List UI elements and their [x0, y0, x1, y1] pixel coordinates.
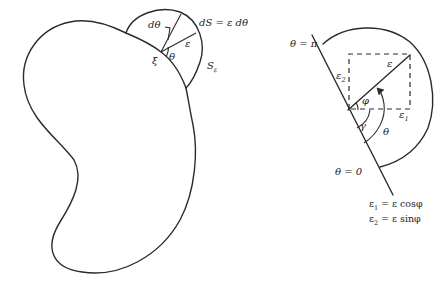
label-epsilon-radius: ε — [185, 38, 190, 49]
label-xi: ξ — [152, 55, 158, 66]
label-gamma: γ — [360, 120, 366, 131]
equation-eps1: ε1 = ε cosφ — [369, 198, 423, 212]
equation-eps2: ε2 = ε sinφ — [369, 213, 421, 227]
label-ds-equation: dS = ε dθ — [199, 17, 248, 28]
label-epsilon-1: ε1 — [399, 109, 409, 123]
epsilon-vector — [348, 55, 410, 110]
phi-arc — [356, 103, 358, 110]
label-theta-pi: θ = π — [290, 38, 318, 49]
dtheta-pointer — [165, 27, 170, 40]
label-theta-angle: θ — [383, 126, 389, 137]
label-theta-zero: θ = 0 — [335, 166, 363, 177]
large-semicircle-arc — [323, 28, 433, 167]
label-phi: φ — [362, 95, 369, 106]
right-figure: θ = π θ = 0 ε ε2 ε1 φ γ θ ε1 = ε cosφ ε2… — [290, 28, 433, 227]
small-circle-arc — [126, 10, 202, 88]
label-dtheta: dθ — [148, 19, 160, 30]
label-s-epsilon: Sε — [207, 60, 218, 74]
left-figure: dθ dS = ε dθ ε θ ξ Sε — [23, 10, 247, 273]
label-epsilon-2: ε2 — [336, 70, 346, 84]
label-epsilon: ε — [387, 58, 392, 69]
diagram-canvas: dθ dS = ε dθ ε θ ξ Sε θ = π θ = 0 ε ε2 ε… — [0, 0, 446, 282]
label-theta: θ — [169, 51, 175, 62]
